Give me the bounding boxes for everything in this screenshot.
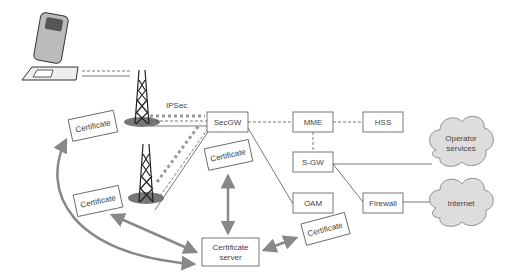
svg-text:HSS: HSS: [375, 118, 391, 127]
ipsec-label: IPSec: [166, 101, 187, 110]
cell-tower-icon: [124, 70, 160, 127]
svg-text:Firewall: Firewall: [369, 199, 397, 208]
certificate-icon: Certificate: [204, 139, 253, 170]
svg-text:S-GW: S-GW: [302, 158, 324, 167]
secgw-node[interactable]: SecGW: [207, 112, 248, 132]
certificate-icon: Certificate: [301, 212, 350, 245]
oam-node[interactable]: OAM: [293, 193, 333, 213]
mobile-phone-icon: [22, 12, 78, 80]
hss-node[interactable]: HSS: [363, 112, 403, 132]
cell-tower-icon: [128, 144, 164, 204]
internet-cloud[interactable]: Internet: [430, 178, 494, 226]
certificate-icon: Certificate: [73, 185, 123, 216]
mme-node[interactable]: MME: [293, 112, 333, 132]
sgw-node[interactable]: S-GW: [293, 152, 333, 172]
svg-text:SecGW: SecGW: [214, 118, 242, 127]
certificate-icon: Certificate: [68, 110, 118, 141]
svg-text:services: services: [446, 144, 475, 153]
network-diagram: IPSec SecGW MME HSS S-GW OAM Firewall Ce…: [0, 0, 516, 280]
svg-text:server: server: [219, 253, 242, 262]
firewall-node[interactable]: Firewall: [363, 193, 403, 213]
svg-text:Operator: Operator: [445, 134, 477, 143]
operator-services-cloud[interactable]: Operator services: [430, 116, 494, 166]
svg-text:Internet: Internet: [447, 199, 475, 208]
svg-text:Certificate: Certificate: [212, 243, 249, 252]
svg-text:MME: MME: [304, 118, 323, 127]
certificate-server-node[interactable]: Certificate server: [202, 238, 259, 266]
svg-text:OAM: OAM: [304, 199, 323, 208]
